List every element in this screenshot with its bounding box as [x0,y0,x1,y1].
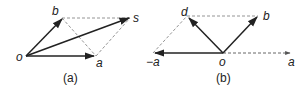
label-o-b: o [219,55,226,69]
label-b-b: b [263,9,270,23]
panel-a: o b a s (a) [16,4,139,85]
vector-diagram: o b a s (a) d b −a o a (b) [0,0,306,92]
panel-b: d b −a o a (b) [146,5,295,85]
label-s: s [133,11,139,25]
dashed-side-nega-d [153,16,187,53]
vector-d-arrow [189,18,223,53]
label-d: d [181,5,188,19]
vector-b-arrow [26,19,62,56]
label-a-b: a [288,55,295,69]
caption-a: (a) [63,71,78,85]
label-o: o [16,50,23,64]
label-neg-a: −a [146,55,160,69]
caption-b: (b) [216,71,231,85]
label-b: b [52,4,59,18]
label-a: a [96,56,103,70]
vector-b-arrow-b [223,17,257,53]
